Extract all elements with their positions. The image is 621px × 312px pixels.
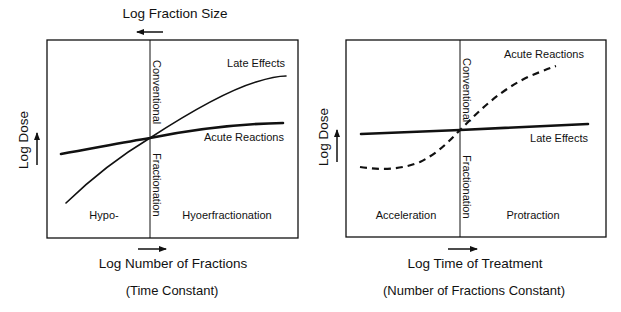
figure: Log Fraction Size Conventional Fractiona… <box>0 0 621 312</box>
right-region-protraction-label: Protraction <box>506 209 559 221</box>
right-acute-reactions-curve <box>360 66 556 169</box>
left-region-hyper-label: Hyoerfractionation <box>182 209 271 221</box>
left-top-axis-title: Log Fraction Size <box>122 6 227 21</box>
right-late-effects-label: Late Effects <box>530 132 588 144</box>
right-panel: Conventional Fractionation Acute Reactio… <box>316 40 606 298</box>
right-y-axis-title: Log Dose <box>316 108 331 166</box>
right-acute-reactions-label: Acute Reactions <box>504 48 585 60</box>
left-divider-label-bottom: Fractionation <box>151 153 163 217</box>
right-divider-label-bottom: Fractionation <box>461 155 473 219</box>
left-region-hypo-label: Hypo- <box>89 209 119 221</box>
right-region-acceleration-label: Acceleration <box>376 209 437 221</box>
left-x-axis-subtitle: (Time Constant) <box>126 283 219 298</box>
right-x-axis-subtitle: (Number of Fractions Constant) <box>383 283 565 298</box>
left-acute-reactions-label: Acute Reactions <box>204 131 285 143</box>
left-x-axis-title: Log Number of Fractions <box>99 256 248 271</box>
right-x-axis-title: Log Time of Treatment <box>407 256 542 271</box>
right-divider-label-top: Conventional <box>461 58 473 122</box>
left-divider-label-top: Conventional <box>151 60 163 124</box>
left-late-effects-label: Late Effects <box>227 57 285 69</box>
left-panel: Log Fraction Size Conventional Fractiona… <box>16 6 298 298</box>
left-y-axis-title: Log Dose <box>16 111 31 169</box>
